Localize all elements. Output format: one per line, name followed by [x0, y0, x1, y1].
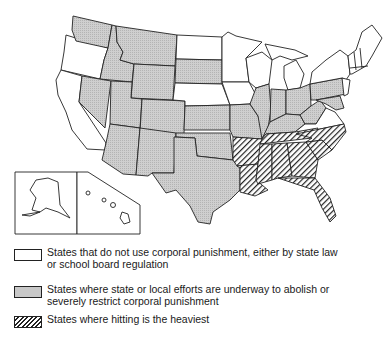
inset-hawaii-frame: [77, 172, 140, 234]
state-wyoming: [131, 64, 175, 100]
state-north-dakota: [176, 35, 222, 60]
swatch-gray: [14, 286, 42, 298]
state-kansas: [184, 105, 230, 130]
state-florida: [278, 178, 336, 222]
state-wisconsin: [246, 52, 272, 88]
swatch-hatched: [14, 316, 42, 328]
state-south-dakota: [175, 59, 222, 84]
state-arkansas: [233, 137, 262, 166]
state-new-mexico: [136, 128, 176, 176]
legend-item-no-corporal-punishment: States that do not use corporal punishme…: [14, 246, 347, 270]
legend-text: States that do not use corporal punishme…: [47, 246, 347, 270]
legend-item-efforts-underway: States where state or local efforts are …: [14, 283, 347, 307]
swatch-white: [14, 249, 42, 261]
legend-text: States where hitting is the heaviest: [47, 313, 347, 325]
legend-item-heaviest-hitting: States where hitting is the heaviest: [14, 313, 347, 328]
state-montana: [116, 26, 177, 66]
legend-text: States where state or local efforts are …: [47, 283, 347, 307]
state-arizona: [102, 124, 140, 175]
us-map: [0, 0, 388, 240]
